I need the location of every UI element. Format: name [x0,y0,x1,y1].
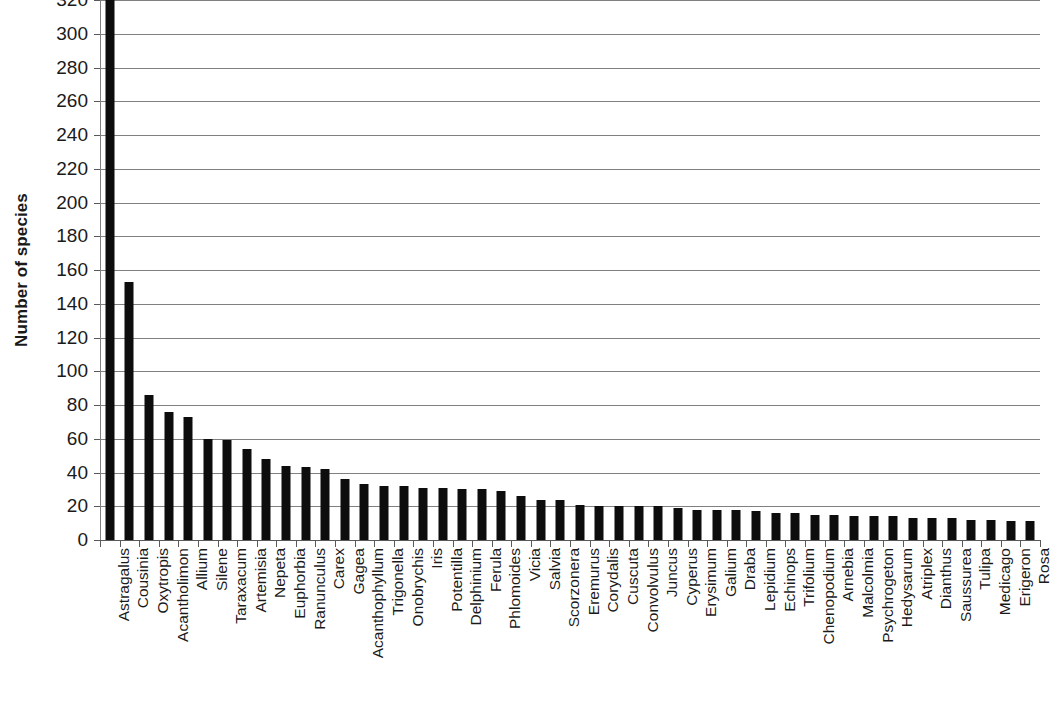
x-axis-category-label: Salvia [547,548,563,590]
x-axis-category-label: Lepidium [762,548,778,611]
bar-slot [550,0,570,540]
x-axis-category-label: Potentilla [449,548,465,612]
bar[interactable] [536,500,545,541]
bar[interactable] [791,513,800,540]
bar[interactable] [1026,521,1035,540]
bar[interactable] [105,0,114,540]
bar-slot [766,0,786,540]
bar[interactable] [595,506,604,540]
bar[interactable] [125,282,134,540]
bar[interactable] [340,479,349,540]
bar[interactable] [693,510,702,540]
bar[interactable] [889,516,898,540]
bar-slot [120,0,140,540]
bar[interactable] [360,484,369,540]
x-tickmark [1001,540,1002,547]
bar[interactable] [438,488,447,540]
bar[interactable] [967,520,976,540]
bar[interactable] [752,511,761,540]
bar[interactable] [556,500,565,541]
bar[interactable] [419,488,428,540]
bar[interactable] [1006,521,1015,540]
bar[interactable] [301,467,310,540]
x-tickmark [609,540,610,547]
x-tickmark [590,540,591,547]
x-tickmark [550,540,551,547]
bar-slot [218,0,238,540]
bar-slot [805,0,825,540]
x-tickmark [746,540,747,547]
bar[interactable] [869,516,878,540]
bar[interactable] [947,518,956,540]
species-bar-chart: Number of species 0204060801001201401601… [0,0,1060,728]
bar-slot [100,0,120,540]
x-axis-tickmarks [100,540,1040,547]
bar[interactable] [379,486,388,540]
bar-slot [472,0,492,540]
x-axis-category-label: Gagea [351,548,367,595]
bar-slot [355,0,375,540]
x-tickmark [981,540,982,547]
x-tickmark [374,540,375,547]
bar[interactable] [830,515,839,540]
bar[interactable] [673,508,682,540]
x-tickmark [864,540,865,547]
x-axis-category-label: Atriplex [919,548,935,600]
x-tickmark [531,540,532,547]
y-tick-label: 260 [56,90,88,112]
bar[interactable] [497,491,506,540]
x-axis-category-label: Allium [194,548,210,590]
bar[interactable] [242,449,251,540]
bar[interactable] [477,489,486,540]
bar[interactable] [399,486,408,540]
bar[interactable] [810,515,819,540]
x-axis-category-label: Chenopodium [821,548,837,645]
bar[interactable] [282,466,291,540]
x-tickmark [570,540,571,547]
bar[interactable] [575,505,584,540]
x-axis-category-label: Oxytropis [155,548,171,613]
y-tick-label: 240 [56,124,88,146]
bar[interactable] [928,518,937,540]
bar[interactable] [203,439,212,540]
x-axis-category-label: Carex [331,548,347,589]
bar-slot [315,0,335,540]
bar-slot [198,0,218,540]
bar[interactable] [262,459,271,540]
bar[interactable] [712,510,721,540]
bar[interactable] [849,516,858,540]
bar[interactable] [614,506,623,540]
y-tick-label: 40 [67,462,88,484]
y-tick-label: 160 [56,259,88,281]
bar-slot [296,0,316,540]
y-tick-label: 0 [77,529,88,551]
bar-slot [335,0,355,540]
bar[interactable] [908,518,917,540]
x-axis-category-label: Artemisia [253,548,269,613]
x-tickmark [903,540,904,547]
bar[interactable] [184,417,193,540]
x-axis-category-label: Ferula [488,548,504,592]
bar[interactable] [144,395,153,540]
bar[interactable] [517,496,526,540]
x-axis-category-label: Hedysarum [899,548,915,627]
bar[interactable] [458,489,467,540]
bar[interactable] [654,506,663,540]
bar[interactable] [634,506,643,540]
bar[interactable] [732,510,741,540]
x-tickmark [883,540,884,547]
x-tickmark [766,540,767,547]
bar[interactable] [321,469,330,540]
bar[interactable] [987,520,996,540]
y-axis-tick-labels: 0204060801001201401601802002202402602803… [44,0,94,540]
x-tickmark [433,540,434,547]
bar[interactable] [164,412,173,540]
bar[interactable] [771,513,780,540]
x-tickmark [276,540,277,547]
x-tickmark [394,540,395,547]
bar-slot [688,0,708,540]
bar-slot [844,0,864,540]
bar-slot [511,0,531,540]
bar[interactable] [223,440,232,540]
bar-slot [453,0,473,540]
